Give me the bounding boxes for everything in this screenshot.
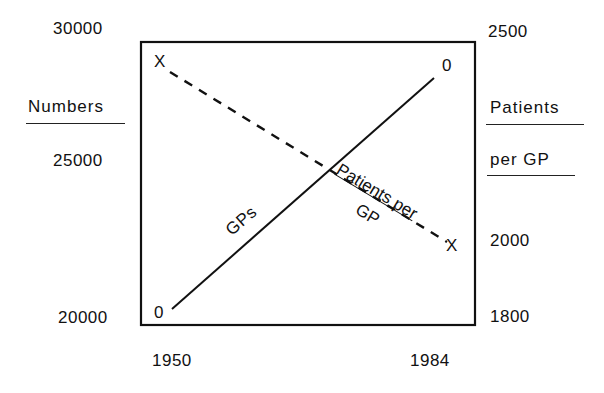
patients-marker-1950: X: [154, 52, 165, 72]
gps-marker-1984: 0: [442, 56, 451, 76]
patients-marker-1984: X: [446, 236, 457, 256]
plot-area: [0, 0, 604, 393]
gps-marker-1950: 0: [154, 303, 163, 323]
